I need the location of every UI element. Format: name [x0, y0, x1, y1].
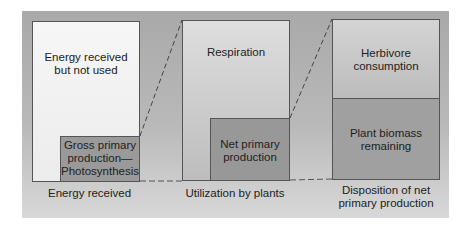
connector-net-to-disposition: [290, 19, 332, 118]
baseline-2-3: [290, 179, 332, 180]
connector-gross-to-utilization: [140, 20, 182, 136]
dashed-connectors: [0, 0, 467, 230]
